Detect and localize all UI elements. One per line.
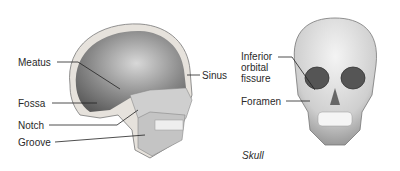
label-meatus: Meatus <box>18 57 51 68</box>
label-foramen: Foramen <box>241 96 281 107</box>
label-inferior-orbital-fissure: Inferior orbital fissure <box>241 51 272 84</box>
lateral-skull <box>70 24 192 158</box>
label-sinus: Sinus <box>202 70 227 81</box>
caption-skull: Skull <box>242 150 264 161</box>
skull-illustration <box>0 0 400 171</box>
label-notch: Notch <box>18 120 44 131</box>
label-groove: Groove <box>18 137 51 148</box>
frontal-skull <box>294 18 376 145</box>
label-fossa: Fossa <box>18 98 45 109</box>
